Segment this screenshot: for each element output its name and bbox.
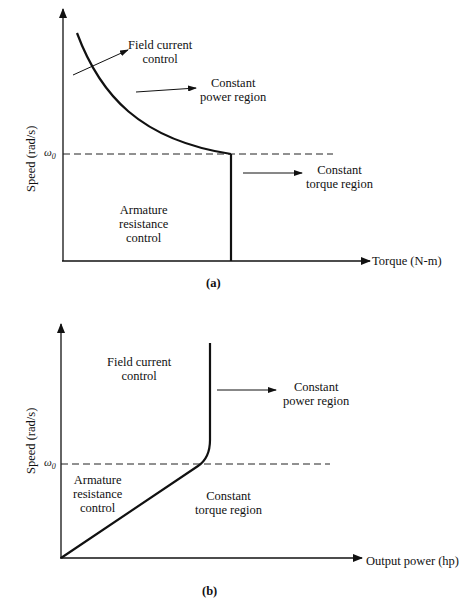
panel-a-y-axis-label: Speed (rad/s) xyxy=(24,126,39,192)
label-line: Field current xyxy=(107,355,171,369)
label-line: control xyxy=(73,501,122,515)
label-line: Constant xyxy=(283,380,349,394)
panel-b-armature-label: Armature resistance control xyxy=(73,473,122,515)
panel-a-x-axis-label: Torque (N-m) xyxy=(372,254,442,268)
panel-a-armature-label: Armature resistance control xyxy=(119,203,168,245)
label-line: torque region xyxy=(195,503,262,517)
label-line: Armature xyxy=(119,203,168,217)
panel-a-const-torque-label: Constant torque region xyxy=(306,163,373,191)
label-line: Constant xyxy=(195,489,262,503)
label-line: Constant xyxy=(200,76,266,90)
panel-a-caption: (a) xyxy=(206,276,221,291)
label-line: control xyxy=(128,52,192,66)
label-line: resistance xyxy=(73,487,122,501)
omega-subscript: 0 xyxy=(52,152,56,161)
label-line: Constant xyxy=(306,163,373,177)
omega-subscript: 0 xyxy=(52,462,56,471)
panel-b-w0-tick: ω0 xyxy=(44,456,56,471)
panel-a-const-power-label: Constant power region xyxy=(200,76,266,104)
panel-b-const-torque-label: Constant torque region xyxy=(195,489,262,517)
label-line: power region xyxy=(200,90,266,104)
panel-a-const-power-arrow xyxy=(136,88,196,92)
label-line: resistance xyxy=(119,217,168,231)
panel-b-const-power-label: Constant power region xyxy=(283,380,349,408)
panel-a-field-current-label: Field current control xyxy=(128,38,192,66)
label-line: power region xyxy=(283,394,349,408)
label-line: control xyxy=(107,369,171,383)
panel-b-x-axis-label: Output power (hp) xyxy=(366,554,459,568)
label-line: control xyxy=(119,231,168,245)
label-line: Armature xyxy=(73,473,122,487)
panel-b-caption: (b) xyxy=(202,584,217,599)
label-line: torque region xyxy=(306,177,373,191)
panel-a-axes xyxy=(62,9,370,261)
panel-b-y-axis-label: Speed (rad/s) xyxy=(24,408,39,474)
omega-symbol: ω xyxy=(44,146,52,158)
panel-b-field-current-label: Field current control xyxy=(107,355,171,383)
panel-a-w0-tick: ω0 xyxy=(44,146,56,161)
label-line: Field current xyxy=(128,38,192,52)
omega-symbol: ω xyxy=(44,456,52,468)
panel-a-field-current-arrow xyxy=(73,50,128,75)
